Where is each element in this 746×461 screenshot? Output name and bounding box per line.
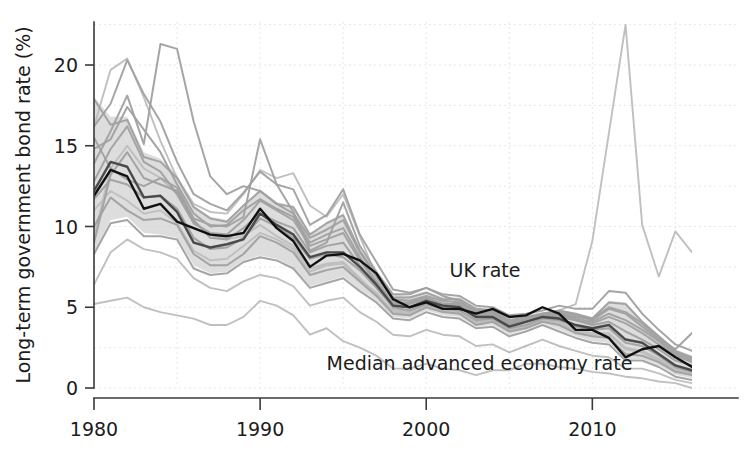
series-lines [94, 25, 692, 388]
y-axis-tick-label: 5 [66, 296, 78, 318]
y-axis-title: Long-term government bond rate (%) [12, 26, 34, 383]
y-axis-title-text: Long-term government bond rate (%) [12, 26, 34, 383]
y-axis-tick-label: 10 [54, 216, 78, 238]
x-axis-tick-label: 1980 [70, 418, 118, 440]
y-axis-tick-label: 20 [54, 54, 78, 76]
bond-rate-line-chart: 051015201980199020002010 UK rateMedian a… [0, 0, 746, 461]
x-axis-tick-label: 2010 [568, 418, 616, 440]
country-rate-line [94, 25, 692, 330]
y-axis-tick-label: 15 [54, 135, 78, 157]
y-axis-tick-label: 0 [66, 377, 78, 399]
x-axis-tick-label: 2000 [402, 418, 450, 440]
uk-rate-label: UK rate [449, 259, 520, 281]
chart-container: 051015201980199020002010 UK rateMedian a… [0, 0, 746, 461]
x-axis-tick-label: 1990 [236, 418, 284, 440]
median-rate-label: Median advanced economy rate [327, 352, 633, 374]
